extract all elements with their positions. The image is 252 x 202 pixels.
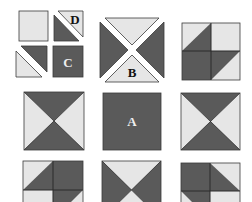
four-patch-top-right [182,23,240,80]
light-square-piece [19,11,48,41]
four-patch-br-q1-dark [181,163,210,191]
block-a: A [103,93,161,150]
piece-d: D [54,11,83,41]
half-square-triangle-piece [16,46,47,77]
piece-a-label: A [127,114,137,129]
hourglass-mid-right [181,93,240,150]
four-patch-bottom-right [181,163,240,202]
hourglass-mid-left [24,92,84,150]
four-patch-tr-q3-dark [182,51,211,80]
piece-b-label: B [128,65,137,80]
four-patch-bottom-left [23,161,83,202]
piece-c-label: C [63,55,72,70]
piece-c: C [53,46,83,77]
quilt-diagram: D C B [0,0,252,202]
hourglass-bottom-center [102,161,161,202]
cut-pieces-group: D C [16,11,83,77]
four-patch-bl-q2-dark [53,161,83,190]
block-b: B [100,18,164,82]
piece-d-label: D [70,12,79,27]
